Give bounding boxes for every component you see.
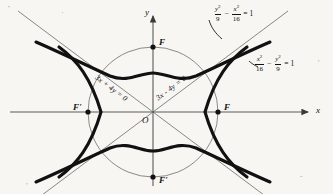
vertical-rhs: = 1 (243, 9, 253, 18)
focus-bottom-dot (150, 174, 155, 179)
vertical-exp2: 2 (237, 4, 240, 9)
horizontal-exp2: 2 (278, 54, 281, 59)
focus-bottom-label: F' (159, 176, 168, 185)
horizontal-den2: 9 (275, 64, 281, 73)
focus-left-label: F' (73, 103, 82, 112)
focus-right-dot (215, 109, 220, 114)
vertical-den1: 9 (215, 14, 221, 23)
vertical-den2: 16 (232, 14, 241, 23)
fraction-y2-over-9b: y2 9 (274, 54, 282, 73)
x-axis-label: x (316, 106, 320, 115)
fraction-x2-over-16b: x2 16 (255, 54, 264, 73)
horizontal-den1: 16 (255, 64, 264, 73)
fraction-y2-over-9: y2 9 (214, 4, 222, 23)
vertical-operator: − (224, 9, 229, 18)
equation-vertical-hyperbola: y2 9 − x2 16 = 1 (214, 4, 253, 23)
focus-top-label: F (159, 38, 165, 47)
vertical-exp1: 2 (218, 4, 221, 9)
origin-label: O (142, 116, 149, 125)
y-axis-label: y (145, 8, 149, 17)
equation-horizontal-hyperbola: x2 16 − y2 9 = 1 (255, 54, 294, 73)
fraction-x2-over-16: x2 16 (232, 4, 241, 23)
diagram-canvas (0, 0, 333, 194)
horizontal-exp1: 2 (260, 54, 263, 59)
horizontal-rhs: = 1 (284, 59, 294, 68)
focus-left-dot (85, 109, 90, 114)
focus-right-label: F (224, 103, 230, 112)
hyperbola-figure: x y O F F' F F' 3x - 4y = 0 3x + 4y = 0 … (0, 0, 333, 194)
horizontal-operator: − (267, 59, 272, 68)
focus-top-dot (150, 44, 155, 49)
